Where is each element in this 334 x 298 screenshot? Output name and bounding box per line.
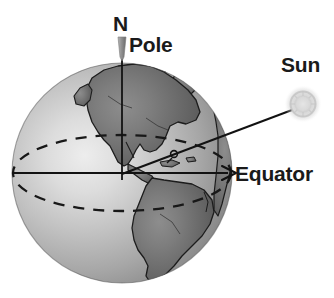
sun-label: Sun: [281, 54, 320, 75]
pole-label: Pole: [129, 34, 173, 55]
europe-limb-sliver: [208, 82, 230, 100]
north-label: N: [113, 13, 128, 34]
caribbean-island-small: [186, 157, 196, 162]
sun-body: [284, 85, 322, 123]
arctic-island-small: [171, 58, 183, 66]
africa-limb-sliver: [214, 102, 246, 216]
earth-sun-diagram: N Pole Sun Equator: [0, 0, 334, 298]
north-pole-pin-icon: [118, 37, 126, 61]
equator-label: Equator: [235, 163, 313, 184]
